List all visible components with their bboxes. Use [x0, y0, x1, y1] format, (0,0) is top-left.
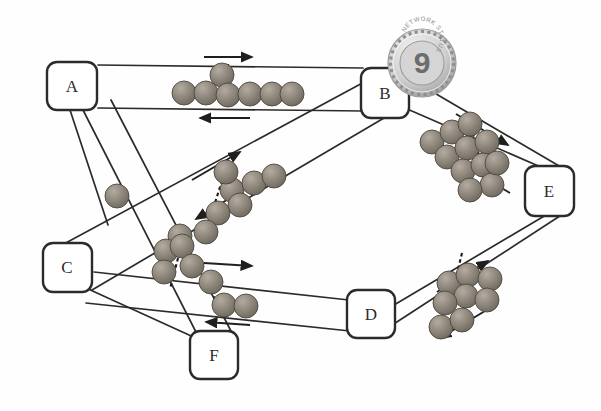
- node-C[interactable]: C: [43, 243, 92, 292]
- node-A[interactable]: A: [47, 62, 97, 110]
- node-D[interactable]: D: [347, 290, 395, 338]
- packet-sphere: [450, 308, 474, 332]
- packet-sphere: [458, 112, 482, 136]
- link-A-C[interactable]: [70, 110, 108, 225]
- packet-sphere: [172, 81, 196, 105]
- status-badge-seal: NETWORK STATUS 9: [388, 15, 456, 97]
- packet-sphere: [480, 173, 504, 197]
- packet-sphere: [238, 82, 262, 106]
- packet-sphere: [180, 254, 204, 278]
- packet-sphere: [194, 220, 218, 244]
- packet-sphere: [105, 184, 129, 208]
- network-topology-svg: A B C D E F: [0, 0, 601, 411]
- packet-sphere: [475, 288, 499, 312]
- diagram-canvas: A B C D E F: [0, 0, 601, 411]
- packet-sphere: [228, 193, 252, 217]
- node-F-label: F: [209, 346, 218, 365]
- packet-sphere: [478, 267, 502, 291]
- packet-sphere: [216, 83, 240, 107]
- packet-sphere: [280, 82, 304, 106]
- packet-sphere: [485, 151, 509, 175]
- packet-sphere: [152, 260, 176, 284]
- node-C-label: C: [61, 258, 72, 277]
- node-F[interactable]: F: [190, 331, 238, 379]
- flow-direction-arrow: [204, 263, 252, 266]
- packet-sphere: [262, 164, 286, 188]
- node-D-label: D: [365, 305, 377, 324]
- packet-sphere: [456, 263, 480, 287]
- packet-sphere: [454, 284, 478, 308]
- packet-sphere: [234, 294, 258, 318]
- packet-sphere: [212, 293, 236, 317]
- node-E-label: E: [544, 182, 554, 201]
- seal-value: 9: [414, 46, 431, 79]
- packet-sphere: [214, 160, 238, 184]
- node-B-label: B: [379, 84, 390, 103]
- node-E[interactable]: E: [525, 166, 574, 216]
- packet-sphere: [429, 315, 453, 339]
- packet-sphere: [458, 178, 482, 202]
- packet-sphere: [475, 130, 499, 154]
- packet-sphere: [199, 270, 223, 294]
- node-A-label: A: [66, 77, 79, 96]
